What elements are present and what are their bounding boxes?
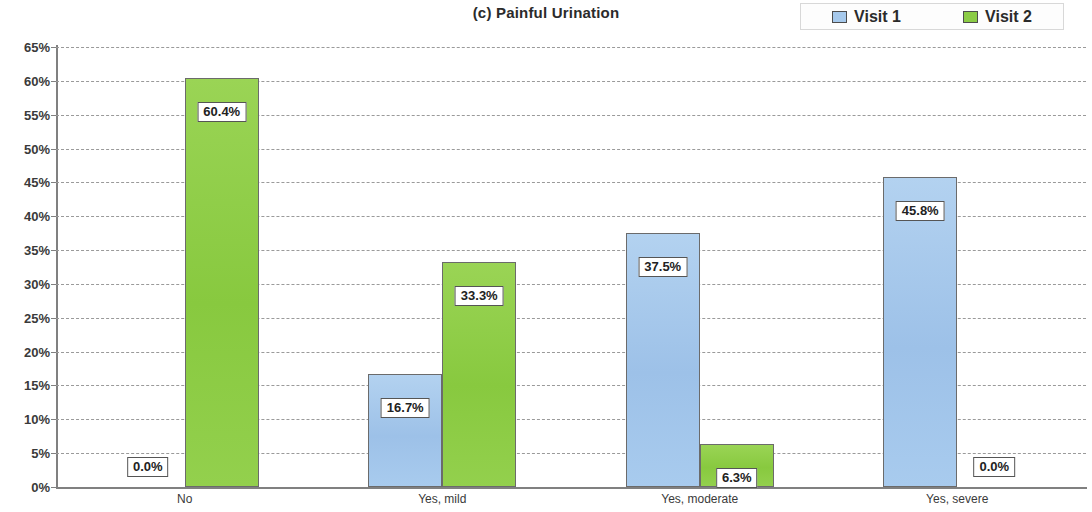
- x-axis-category-label: Yes, severe: [926, 492, 988, 506]
- data-label: 6.3%: [716, 468, 758, 488]
- x-axis-line: [56, 487, 1087, 489]
- data-label: 37.5%: [638, 257, 687, 277]
- y-axis-tick-label: 50%: [4, 141, 50, 156]
- y-axis-tick-label: 30%: [4, 276, 50, 291]
- y-axis-tick-label: 15%: [4, 378, 50, 393]
- bar-visit-2: [185, 78, 259, 487]
- legend-item-visit-2: Visit 2: [963, 8, 1032, 26]
- x-axis-category-label: Yes, moderate: [661, 492, 738, 506]
- data-label: 60.4%: [197, 102, 246, 122]
- data-label: 0.0%: [973, 457, 1015, 477]
- gridline: [56, 47, 1086, 48]
- y-axis-tick-label: 65%: [4, 40, 50, 55]
- legend-swatch-visit-2-icon: [963, 11, 978, 23]
- legend-label-visit-1: Visit 1: [854, 8, 901, 26]
- data-label: 0.0%: [127, 457, 169, 477]
- data-label: 33.3%: [455, 286, 504, 306]
- legend-label-visit-2: Visit 2: [985, 8, 1032, 26]
- x-axis-category-label: No: [177, 492, 192, 506]
- y-axis-tick-label: 5%: [4, 446, 50, 461]
- y-axis-tick-label: 20%: [4, 344, 50, 359]
- y-axis-tick-label: 10%: [4, 412, 50, 427]
- y-axis-tick-labels: 0%5%10%15%20%25%30%35%40%45%50%55%60%65%: [0, 47, 50, 487]
- legend-item-visit-1: Visit 1: [832, 8, 901, 26]
- legend-swatch-visit-1-icon: [832, 11, 847, 23]
- y-axis-tick-label: 40%: [4, 209, 50, 224]
- y-axis-tick-label: 25%: [4, 310, 50, 325]
- plot-area: 0.0%60.4%16.7%33.3%37.5%6.3%45.8%0.0%: [56, 47, 1086, 487]
- y-axis-tick-label: 0%: [4, 480, 50, 495]
- data-label: 16.7%: [381, 398, 430, 418]
- x-axis-category-labels: NoYes, mildYes, moderateYes, severe: [56, 492, 1086, 512]
- y-axis-tick-label: 45%: [4, 175, 50, 190]
- chart-legend: Visit 1 Visit 2: [800, 3, 1064, 30]
- data-label: 45.8%: [896, 201, 945, 221]
- bar-visit-1: [883, 177, 957, 487]
- bar-visit-1: [368, 374, 442, 487]
- x-axis-category-label: Yes, mild: [418, 492, 466, 506]
- y-axis-tick-mark: [51, 487, 56, 488]
- y-axis-tick-label: 35%: [4, 243, 50, 258]
- y-axis-tick-label: 60%: [4, 73, 50, 88]
- y-axis-tick-label: 55%: [4, 107, 50, 122]
